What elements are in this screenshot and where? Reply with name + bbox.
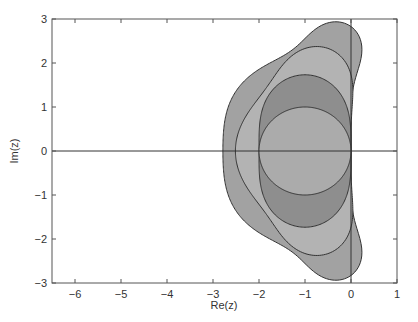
y-tick-label: −2 — [34, 233, 47, 245]
y-tick-label: 1 — [41, 101, 47, 113]
x-axis-label: Re(z) — [211, 299, 238, 311]
x-tick-label: −1 — [299, 288, 312, 300]
y-axis-label: Im(z) — [8, 138, 20, 163]
y-tick-label: 0 — [41, 145, 47, 157]
x-tick-label: 1 — [394, 288, 400, 300]
x-tick-label: −2 — [253, 288, 266, 300]
x-tick-label: −4 — [161, 288, 174, 300]
y-tick-label: 3 — [41, 13, 47, 25]
y-tick-label: 2 — [41, 57, 47, 69]
stability-region-chart: −6−5−4−3−2−101−3−2−10123 Re(z) Im(z) — [0, 0, 418, 322]
y-tick-label: −1 — [34, 189, 47, 201]
x-tick-label: 0 — [348, 288, 354, 300]
y-tick-label: −3 — [34, 277, 47, 289]
x-tick-label: −5 — [115, 288, 128, 300]
x-tick-label: −6 — [69, 288, 82, 300]
